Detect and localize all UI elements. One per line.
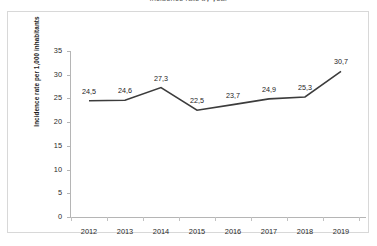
data-label-2018: 25,3	[298, 83, 312, 92]
data-label-2015: 22,5	[190, 96, 204, 105]
data-label-2019: 30,7	[334, 57, 348, 66]
data-label-2017: 24,9	[262, 85, 276, 94]
chart-screenshot: Incidence rate by year Incidence rate pe…	[0, 0, 377, 246]
chart-plot-frame: Incidence rate per 1,000 inhabitants 051…	[7, 11, 369, 233]
data-label-2013: 24,6	[118, 86, 132, 95]
chart-title: Incidence rate by year	[0, 0, 377, 2]
series-line-layer	[8, 12, 377, 246]
data-label-2016: 23,7	[226, 91, 240, 100]
data-label-2012: 24,5	[82, 87, 96, 96]
data-label-2014: 27,3	[154, 74, 168, 83]
